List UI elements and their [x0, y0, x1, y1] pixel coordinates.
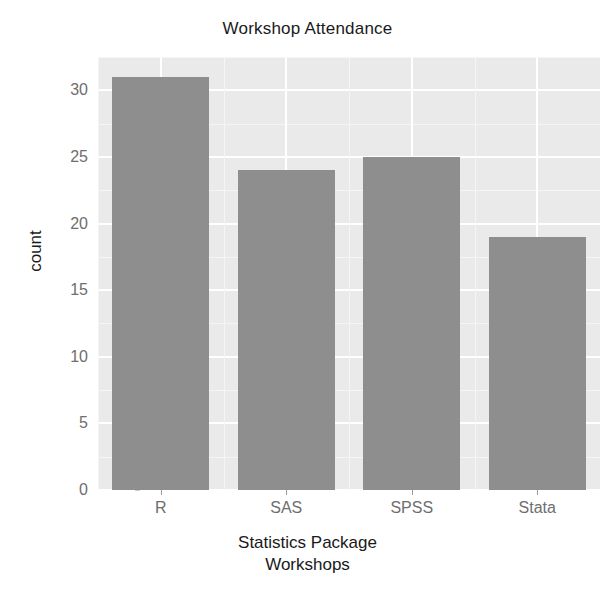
plot-panel: [98, 57, 600, 490]
y-tick-label: 30: [44, 81, 88, 99]
bar-r: [112, 77, 209, 490]
x-tick-label-r: R: [155, 499, 167, 517]
gridline-vertical-minor: [224, 57, 225, 490]
bar-chart-figure: Workshop Attendance count 051015202530 R…: [0, 0, 615, 609]
x-tick-label-sas: SAS: [270, 499, 302, 517]
gridline-vertical-minor: [349, 57, 350, 490]
gridline-vertical-minor: [98, 57, 99, 490]
bar-stata: [489, 237, 586, 490]
y-tick-label: 5: [44, 414, 88, 432]
bar-spss: [363, 157, 460, 490]
x-tick-label-stata: Stata: [519, 499, 556, 517]
x-axis-title-line2: Workshops: [0, 554, 615, 576]
chart-title: Workshop Attendance: [0, 19, 615, 39]
x-tick-mark: [412, 490, 413, 495]
y-tick-label: 10: [44, 348, 88, 366]
bar-sas: [238, 170, 335, 490]
x-tick-mark: [537, 490, 538, 495]
y-tick-label: 20: [44, 215, 88, 233]
y-tick-label: 25: [44, 148, 88, 166]
y-tick-label: 15: [44, 281, 88, 299]
x-tick-label-spss: SPSS: [390, 499, 433, 517]
y-axis-title: count: [26, 201, 46, 301]
x-axis-tick-labels: RSASSPSSStata: [98, 499, 600, 523]
x-tick-mark: [286, 490, 287, 495]
x-tick-mark: [161, 490, 162, 495]
x-axis-tick-marks: [98, 490, 600, 496]
y-axis-tick-labels: 051015202530: [44, 57, 88, 490]
gridline-vertical-minor: [475, 57, 476, 490]
x-axis-title-line1: Statistics Package: [0, 532, 615, 554]
x-axis-title: Statistics Package Workshops: [0, 532, 615, 576]
y-tick-label: 0: [44, 481, 88, 499]
